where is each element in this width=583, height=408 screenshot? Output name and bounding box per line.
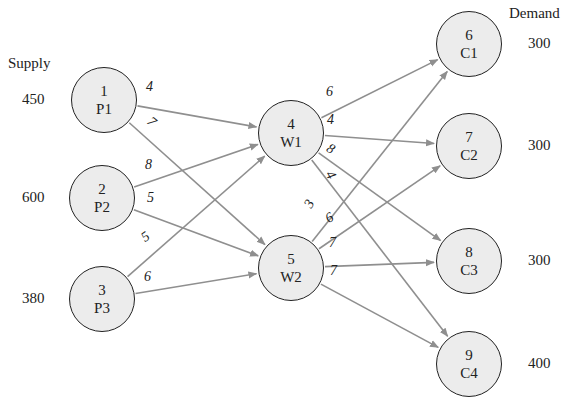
demand-amount-c1: 300 xyxy=(528,35,551,52)
demand-amount-c4: 400 xyxy=(528,355,551,372)
node-name: C1 xyxy=(460,44,478,62)
node-p3: 3P3 xyxy=(69,266,135,332)
supply-amount-p1: 450 xyxy=(22,91,45,108)
demand-amount-c2: 300 xyxy=(528,137,551,154)
node-number: 6 xyxy=(465,26,473,44)
edge-w1-c2 xyxy=(325,135,434,143)
edge-cost-label: 5 xyxy=(147,190,154,206)
edge-p3-w2 xyxy=(136,274,257,294)
edge-cost-label: 6 xyxy=(326,84,333,100)
edge-cost-label: 7 xyxy=(330,263,337,279)
supply-amount-p2: 600 xyxy=(22,189,45,206)
edge-p2-w1 xyxy=(134,144,258,187)
node-p1: 1P1 xyxy=(71,67,137,133)
node-w2: 5W2 xyxy=(258,235,324,301)
demand-amount-c3: 300 xyxy=(528,252,551,269)
edge-w2-c3 xyxy=(325,262,434,266)
node-name: P3 xyxy=(94,299,110,317)
node-name: C2 xyxy=(460,146,478,164)
demand-header: Demand xyxy=(509,5,560,22)
node-c3: 8C3 xyxy=(436,228,502,294)
edge-w2-c2 xyxy=(319,166,440,249)
edge-cost-label: 4 xyxy=(327,112,334,128)
node-p2: 2P2 xyxy=(69,165,135,231)
edge-cost-label: 6 xyxy=(144,269,151,285)
node-name: W2 xyxy=(280,268,302,286)
node-name: P1 xyxy=(96,100,112,118)
node-w1: 4W1 xyxy=(258,100,324,166)
node-c1: 6C1 xyxy=(436,11,502,77)
node-name: C4 xyxy=(460,364,478,382)
node-name: C3 xyxy=(460,261,478,279)
edge-cost-label: 4 xyxy=(146,79,153,95)
node-c2: 7C2 xyxy=(436,113,502,179)
node-c4: 9C4 xyxy=(436,331,502,397)
node-number: 8 xyxy=(465,243,473,261)
edge-w1-c3 xyxy=(319,153,441,241)
node-name: P2 xyxy=(94,198,110,216)
supply-amount-p3: 380 xyxy=(22,290,45,307)
node-number: 4 xyxy=(287,115,295,133)
edge-p1-w2 xyxy=(129,123,265,245)
node-number: 3 xyxy=(98,281,106,299)
node-number: 1 xyxy=(100,82,108,100)
edge-p3-w1 xyxy=(128,156,265,276)
node-name: W1 xyxy=(280,133,302,151)
node-number: 9 xyxy=(465,346,473,364)
node-number: 2 xyxy=(98,180,106,198)
supply-header: Supply xyxy=(8,55,51,72)
edge-cost-label: 7 xyxy=(329,235,336,251)
node-number: 5 xyxy=(287,250,295,268)
edge-w1-c1 xyxy=(321,60,437,118)
node-number: 7 xyxy=(465,128,473,146)
edge-cost-label: 8 xyxy=(145,157,152,173)
edge-w2-c4 xyxy=(321,284,438,347)
